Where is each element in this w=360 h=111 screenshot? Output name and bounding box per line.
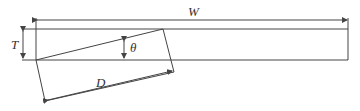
- diagram: W T θ D: [0, 0, 360, 111]
- width-dimension: W: [36, 4, 348, 60]
- rotated-rectangle: [36, 29, 174, 101]
- diagonal-label: D: [95, 75, 106, 90]
- thickness-label: T: [11, 37, 19, 52]
- thickness-dimension: T: [11, 31, 23, 58]
- angle-label: θ: [130, 40, 137, 55]
- strip: [22, 29, 348, 60]
- diagonal-dimension: D: [48, 71, 172, 100]
- width-label: W: [188, 4, 200, 19]
- angle-dimension: θ: [124, 40, 137, 58]
